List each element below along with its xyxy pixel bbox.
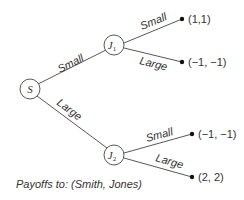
leaf-dot bbox=[190, 175, 194, 179]
edge-label-s-j1: Small bbox=[55, 51, 85, 74]
leaf-dot bbox=[180, 17, 184, 21]
edge-label-j2-small: Small bbox=[144, 125, 174, 144]
edge-label-s-j2: Large bbox=[55, 96, 85, 123]
payoff-j2-small: (−1, −1) bbox=[198, 128, 237, 140]
payoff-j1-large: (−1, −1) bbox=[188, 56, 227, 68]
node-s-label: S bbox=[27, 83, 33, 95]
game-tree: S J1 J2 Small Large Small Large Small La… bbox=[0, 0, 244, 200]
payoff-j2-large: (2, 2) bbox=[198, 171, 224, 183]
leaf-dot bbox=[190, 132, 194, 136]
edge-label-j1-small: Small bbox=[138, 10, 169, 32]
leaf-dot bbox=[180, 60, 184, 64]
payoff-j1-small: (1,1) bbox=[188, 13, 211, 25]
payoffs-caption: Payoffs to: (Smith, Jones) bbox=[16, 178, 142, 190]
edge-label-j1-large: Large bbox=[139, 54, 169, 72]
